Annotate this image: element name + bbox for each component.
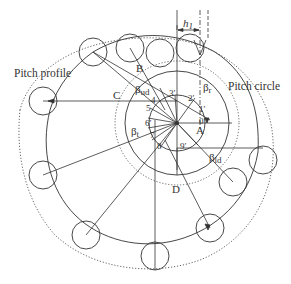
station-5: 5 [146,103,151,113]
station-4: 4 [151,95,156,105]
arrow-h1-right [194,29,199,32]
follower-tip-left [194,40,200,55]
station-6: 6′ [145,118,152,128]
pitch-profile-label: Pitch profile [14,67,71,80]
hub-point [175,121,178,124]
arrow-ld [205,224,210,230]
h1-label: h1 [183,17,193,31]
radial-line-long [86,123,177,235]
station-3: 3′ [169,88,176,98]
station-0: 0′ [199,116,206,126]
roller-4 [249,146,277,174]
label-B: B [136,62,143,74]
beta-t-label: βt [131,125,140,139]
roller-3 [146,39,174,67]
station-1: 1′ [199,104,206,114]
label-D: D [172,183,180,195]
station-8: 8 [157,141,162,151]
label-C: C [113,89,120,101]
station-7: 7 [150,130,155,140]
station-9: 9′ [180,141,187,151]
cam-diagram: Pitch profile Pitch circle h1 B C A D βr… [0,0,291,284]
arrow-A [205,118,209,123]
arrow-C [48,99,54,103]
station-2: 2′ [188,93,195,103]
pitch-circle-label: Pitch circle [228,80,280,92]
beta-ud-label: βud [135,83,150,97]
radial-line-long [177,123,233,182]
beta-ld-label: βld [209,151,222,165]
